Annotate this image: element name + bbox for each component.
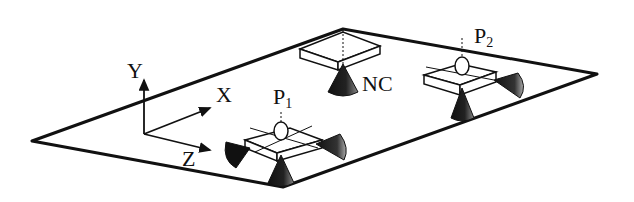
x-axis-label: X — [216, 84, 232, 106]
nc-label: NC — [362, 73, 393, 95]
diagram-graphics — [0, 0, 634, 202]
p2-label-subscript: 2 — [486, 35, 493, 50]
y-axis-label: Y — [127, 60, 143, 82]
p1-label-subscript: 1 — [285, 96, 292, 111]
axes-icon — [144, 80, 210, 150]
p2-node-icon — [424, 38, 524, 121]
p1-node-icon — [225, 112, 346, 187]
p1-label: P1 — [273, 86, 292, 111]
z-axis-label: Z — [182, 148, 195, 170]
p2-label: P2 — [474, 25, 493, 50]
diagram-canvas: Y X Z P1 P2 NC — [0, 0, 634, 202]
p1-label-text: P — [273, 84, 285, 109]
p2-label-text: P — [474, 23, 486, 48]
